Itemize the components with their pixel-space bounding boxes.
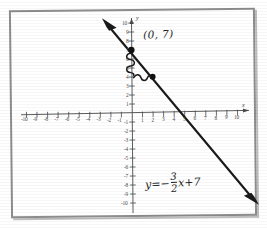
- x-tick-label: -8: [44, 116, 48, 122]
- graph-plot-area: -10 -9 -8 -7 -6 -5 -4 -3 -2 -1 1 2 3 4 5…: [0, 0, 267, 228]
- equation-numerator: 3: [170, 172, 177, 182]
- y-tick-label: 3: [126, 83, 129, 89]
- y-tick-label: 8: [126, 38, 129, 44]
- point-annotation-label: (0, 7): [143, 27, 174, 40]
- y-tick-label: -4: [124, 146, 128, 152]
- x-tick-label: -9: [33, 116, 37, 122]
- y-tick-label: 9: [126, 29, 129, 35]
- x-tick-label: 7: [204, 115, 207, 121]
- x-axis-arrow: [243, 108, 249, 112]
- x-tick-label: 3: [162, 116, 165, 122]
- x-tick-label: -2: [107, 117, 111, 123]
- x-tick-label: -6: [65, 116, 69, 122]
- y-tick-label: -5: [124, 155, 128, 161]
- x-tick-label: 2: [152, 117, 155, 123]
- y-tick-label: 4: [126, 74, 129, 80]
- y-tick-label: -6: [124, 164, 128, 170]
- y-tick-label: 1: [126, 101, 129, 107]
- equation-denominator: 2: [171, 183, 178, 193]
- line-arrow-upper-left: [102, 18, 117, 31]
- screenshot-root: -10 -9 -8 -7 -6 -5 -4 -3 -2 -1 1 2 3 4 5…: [0, 0, 267, 228]
- x-tick-label: 4: [173, 116, 176, 122]
- x-tick-label: -1: [118, 117, 122, 123]
- y-tick-label: -1: [124, 119, 128, 125]
- equation-fraction: 3 2: [170, 172, 177, 193]
- y-tick-label: 7: [126, 47, 129, 53]
- y-tick-label: -7: [124, 173, 128, 179]
- equation-minus: −: [160, 177, 170, 190]
- equation-annotation: y=− 3 2 x+7: [144, 171, 200, 195]
- y-tick-label: -8: [124, 182, 128, 188]
- y-tick-label: 6: [126, 56, 129, 62]
- y-tick-label: 10: [122, 20, 127, 26]
- y-tick-label: -2: [124, 128, 128, 134]
- x-tick-label: 8: [215, 115, 218, 121]
- line-arrow-lower-right: [244, 193, 259, 205]
- x-tick-label: -5: [76, 116, 80, 122]
- x-tick-label: -3: [97, 116, 101, 122]
- x-tick-label: -4: [86, 116, 90, 122]
- x-tick-label: -10: [21, 116, 28, 122]
- y-tick-label: -10: [121, 200, 128, 206]
- y-tick-label: -9: [124, 191, 128, 197]
- x-tick-label: 9: [225, 114, 228, 120]
- x-tick-label: -7: [55, 116, 59, 122]
- x-tick-label: 1: [141, 117, 144, 123]
- x-axis-label: x: [242, 102, 245, 108]
- y-tick-label: 2: [126, 92, 129, 98]
- x-tick-label: 10: [234, 114, 239, 120]
- y-axis-label: y: [136, 15, 139, 21]
- point-0-7: [128, 47, 134, 53]
- y-tick-label: -3: [124, 137, 128, 143]
- y-tick-label: 5: [126, 65, 129, 71]
- equation-intercept: 7: [193, 175, 201, 188]
- x-tick-label: 5: [183, 116, 186, 122]
- x-tick-label: 6: [194, 115, 197, 121]
- slope-run-squiggle: [134, 75, 151, 81]
